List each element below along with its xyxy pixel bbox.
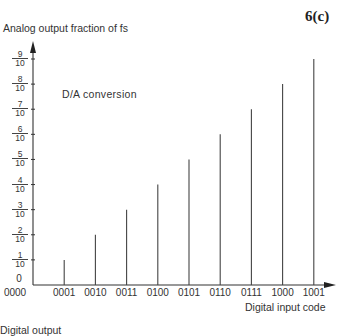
y-tick-label: 110 <box>12 251 28 268</box>
fraction-denominator: 10 <box>12 260 28 268</box>
fraction-denominator: 10 <box>12 134 28 142</box>
y-tick-label: 810 <box>12 75 28 92</box>
y-tick-label: 310 <box>12 201 28 218</box>
x-tick-label: 0010 <box>80 287 110 298</box>
y-tick-label: 710 <box>12 100 28 117</box>
fraction-denominator: 10 <box>12 235 28 243</box>
fraction-denominator: 10 <box>12 84 28 92</box>
x-tick-label: 0011 <box>112 287 142 298</box>
x-tick-label: 0111 <box>236 287 266 298</box>
y-tick-label-zero: 0 <box>11 275 27 283</box>
x-tick-label: 0001 <box>49 287 79 298</box>
fraction-denominator: 10 <box>12 159 28 167</box>
fraction-denominator: 10 <box>12 109 28 117</box>
y-tick-label: 910 <box>12 50 28 67</box>
fraction-denominator: 10 <box>12 210 28 218</box>
axes <box>33 50 328 285</box>
y-tick-label: 210 <box>12 226 28 243</box>
x-tick-label: 1001 <box>299 287 329 298</box>
data-stems <box>64 59 314 285</box>
y-tick-label: 410 <box>12 176 28 193</box>
y-tick-label: 610 <box>12 125 28 142</box>
x-tick-label: 0101 <box>174 287 204 298</box>
fraction-denominator: 10 <box>12 59 28 67</box>
fraction-denominator: 10 <box>12 185 28 193</box>
x-tick-label: 0100 <box>143 287 173 298</box>
y-axis-arrow-icon <box>30 41 36 53</box>
x-tick-label: 1000 <box>268 287 298 298</box>
x-tick-label: 0000 <box>0 287 30 298</box>
y-tick-label: 510 <box>12 150 28 167</box>
x-tick-label: 0110 <box>205 287 235 298</box>
